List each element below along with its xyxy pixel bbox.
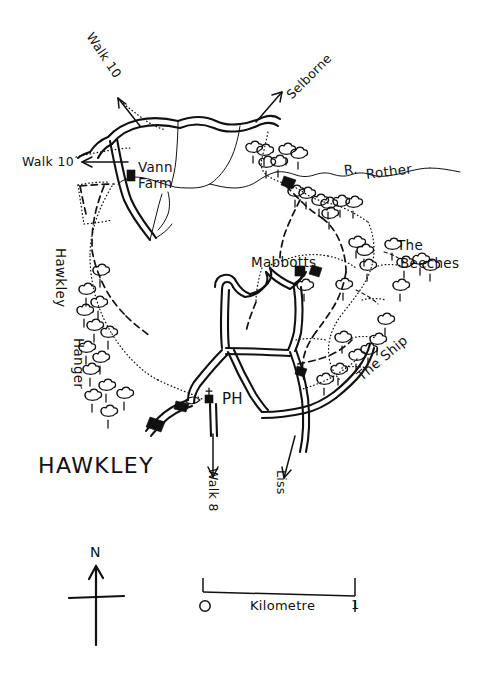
tree-icon bbox=[360, 259, 377, 281]
label-north: N bbox=[90, 545, 101, 560]
label-mabbotts: Mabbotts bbox=[251, 255, 316, 269]
tree-icon bbox=[297, 279, 314, 301]
tree-icon bbox=[101, 405, 118, 428]
tree-symbols bbox=[77, 141, 440, 428]
road-village-east bbox=[288, 287, 303, 351]
tree-icon bbox=[117, 387, 134, 410]
tree-icon bbox=[79, 283, 96, 306]
label-the-beeches-line1: The bbox=[397, 238, 423, 252]
direction-arrows bbox=[82, 92, 295, 478]
building-vann-farm bbox=[127, 170, 135, 181]
road-walk8 bbox=[210, 404, 217, 436]
label-vann-farm-line2: Farm bbox=[138, 176, 172, 190]
label-walk-10-west: Walk 10 bbox=[22, 155, 74, 168]
road-west-spur bbox=[90, 137, 112, 158]
road-to-liss bbox=[290, 350, 309, 452]
road-vann-to-selborne bbox=[108, 116, 280, 144]
page-title: HAWKLEY bbox=[38, 455, 154, 478]
tree-icon bbox=[393, 279, 410, 301]
road-village-main-street bbox=[221, 290, 229, 348]
building-ph-road bbox=[146, 417, 165, 432]
label-walk-8: Walk 8 bbox=[207, 468, 220, 512]
label-scale-max: 1 bbox=[351, 598, 360, 612]
tree-icon bbox=[93, 351, 110, 374]
walk-route-dashed bbox=[80, 184, 406, 380]
tree-icon bbox=[317, 373, 334, 395]
label-river-rother-part1: R. bbox=[343, 161, 358, 177]
tree-icon bbox=[99, 379, 116, 402]
label-liss: Liss bbox=[275, 470, 288, 495]
tree-icon bbox=[85, 389, 102, 412]
road-village-north-fork bbox=[215, 268, 294, 297]
tree-icon bbox=[378, 313, 395, 335]
label-hawkley-hanger-line1: Hawkley bbox=[54, 248, 68, 307]
map-canvas: HAWKLEY Walk 10 Walk 10 Selborne Vann Fa… bbox=[0, 0, 488, 676]
compass-rose bbox=[69, 566, 124, 645]
label-the-beeches-line2: Beeches bbox=[400, 256, 459, 270]
label-scale-unit: Kilometre bbox=[250, 599, 315, 613]
road-ph-east bbox=[262, 392, 336, 418]
label-ph: PH bbox=[222, 392, 243, 408]
tree-icon bbox=[346, 196, 363, 218]
ph-marker-icon bbox=[205, 388, 213, 403]
label-vann-farm-line1: Vann bbox=[138, 160, 173, 174]
tree-icon bbox=[91, 296, 108, 319]
tree-icon bbox=[291, 147, 308, 169]
label-hawkley-hanger-line2: Hanger bbox=[72, 338, 86, 389]
tree-icon bbox=[77, 304, 94, 327]
tree-icon bbox=[93, 264, 110, 287]
